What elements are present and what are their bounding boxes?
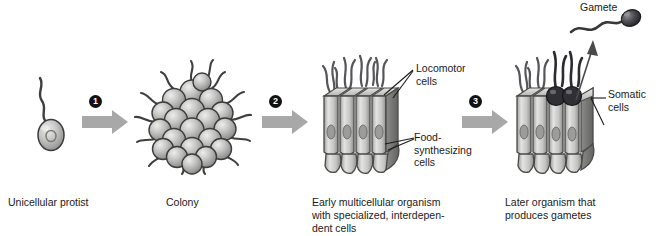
caption-early-multicellular-organism: Early multicellular organism with specia…	[312, 196, 477, 235]
highlight	[41, 125, 49, 131]
label-gamete: Gamete	[580, 1, 640, 14]
unicellular-protist-illustration	[18, 72, 82, 158]
step-number-1: 1	[89, 95, 102, 108]
step-number-2: 2	[269, 95, 282, 108]
label-locomotor-cells: Locomotor cells	[416, 62, 482, 87]
transition-arrow-2	[262, 110, 310, 136]
caption-later-organism: Later organism that produces gametes	[505, 196, 635, 222]
locomotor-flagella	[516, 58, 548, 92]
caption-unicellular-protist: Unicellular protist	[8, 196, 108, 209]
multicellularity-evolution-diagram: Unicellular protist 1	[0, 0, 671, 236]
gamete-flagellum	[571, 20, 624, 32]
step-number-3: 3	[469, 95, 482, 108]
colony-illustration	[132, 56, 256, 174]
transition-arrow-3	[462, 110, 510, 136]
flagellum	[40, 78, 49, 126]
label-food-synthesizing-cells: Food- synthesizing cells	[414, 131, 480, 169]
cell-body	[38, 120, 64, 151]
label-somatic-cells: Somatic cells	[608, 88, 668, 113]
caption-colony: Colony	[166, 196, 246, 209]
transition-arrow-1	[82, 110, 130, 136]
colony-cells	[149, 73, 236, 174]
locomotor-flagella	[323, 56, 387, 92]
